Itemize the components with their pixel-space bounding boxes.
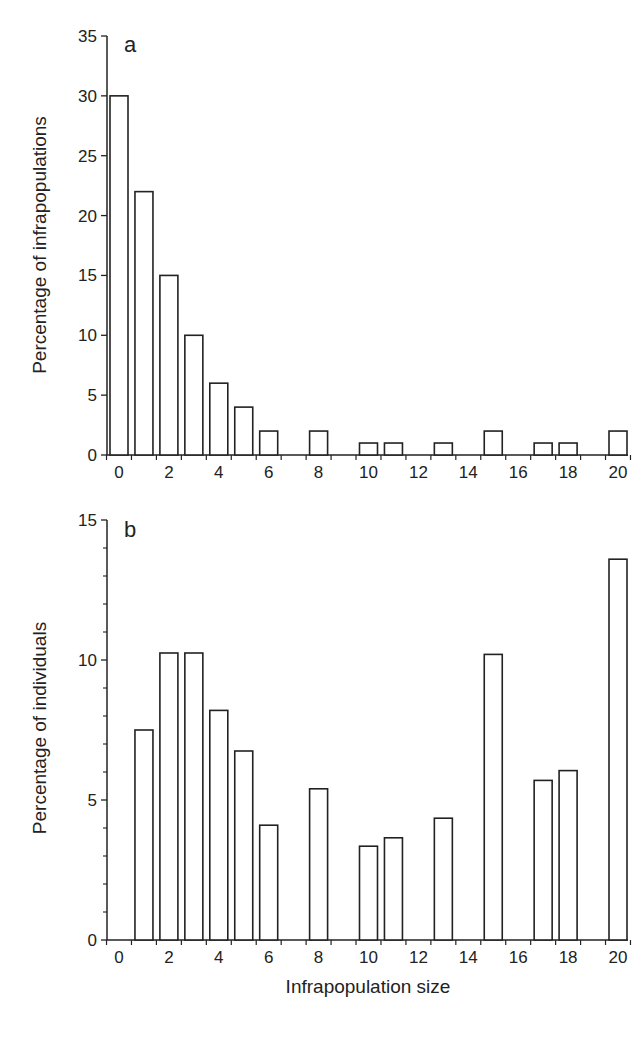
y-tick-label: 15 [78, 266, 97, 285]
bar [235, 407, 253, 455]
y-axis-title: Percentage of infrapopulations [29, 116, 50, 374]
x-tick-label: 8 [314, 948, 323, 967]
bar [110, 96, 128, 455]
x-tick-label: 20 [609, 948, 628, 967]
bar [360, 443, 378, 455]
x-tick-label: 10 [359, 463, 378, 482]
bar [160, 653, 178, 940]
x-tick-label: 2 [164, 463, 173, 482]
bar [609, 431, 627, 455]
x-tick-label: 10 [359, 948, 378, 967]
panel-a-chart: 0510152025303502468101214161820aPercenta… [29, 27, 630, 482]
bar [384, 838, 402, 940]
bar [534, 780, 552, 940]
bar [310, 431, 328, 455]
y-tick-label: 25 [78, 147, 97, 166]
bar [210, 383, 228, 455]
bar [434, 818, 452, 940]
x-tick-label: 16 [509, 948, 528, 967]
bar [434, 443, 452, 455]
bar [135, 730, 153, 940]
panel-label: b [124, 517, 136, 542]
x-tick-label: 0 [114, 463, 123, 482]
panel-label: a [124, 32, 137, 57]
bar [260, 825, 278, 940]
bar [360, 846, 378, 940]
y-tick-label: 35 [78, 27, 97, 46]
bar [609, 559, 627, 940]
x-tick-label: 6 [264, 948, 273, 967]
x-tick-label: 18 [559, 948, 578, 967]
x-tick-label: 14 [459, 463, 478, 482]
y-tick-label: 10 [78, 651, 97, 670]
bar [559, 443, 577, 455]
x-tick-label: 12 [409, 948, 428, 967]
x-tick-label: 8 [314, 463, 323, 482]
x-tick-label: 16 [509, 463, 528, 482]
bar [559, 771, 577, 940]
y-tick-label: 5 [88, 386, 97, 405]
bar [260, 431, 278, 455]
bar [160, 275, 178, 455]
bar [185, 653, 203, 940]
bar [210, 710, 228, 940]
x-tick-label: 12 [409, 463, 428, 482]
bar [484, 431, 502, 455]
x-tick-label: 18 [559, 463, 578, 482]
x-tick-label: 4 [214, 948, 223, 967]
bar [534, 443, 552, 455]
bar [384, 443, 402, 455]
y-tick-label: 15 [78, 511, 97, 530]
x-tick-label: 4 [214, 463, 223, 482]
bar [310, 789, 328, 940]
y-tick-label: 30 [78, 87, 97, 106]
bar [135, 192, 153, 455]
figure: 0510152025303502468101214161820aPercenta… [0, 0, 643, 1038]
panel-b-chart: 05101502468101214161820bPercentage of in… [29, 511, 630, 997]
bar [484, 654, 502, 940]
y-tick-label: 10 [78, 326, 97, 345]
x-tick-label: 20 [609, 463, 628, 482]
x-axis-title: Infrapopulation size [286, 976, 451, 997]
x-tick-label: 0 [114, 948, 123, 967]
y-tick-label: 5 [88, 791, 97, 810]
bar [235, 751, 253, 940]
bar [185, 335, 203, 455]
x-tick-label: 2 [164, 948, 173, 967]
y-tick-label: 20 [78, 207, 97, 226]
y-tick-label: 0 [88, 446, 97, 465]
y-axis-title: Percentage of individuals [29, 622, 50, 834]
x-tick-label: 6 [264, 463, 273, 482]
x-tick-label: 14 [459, 948, 478, 967]
y-tick-label: 0 [88, 931, 97, 950]
